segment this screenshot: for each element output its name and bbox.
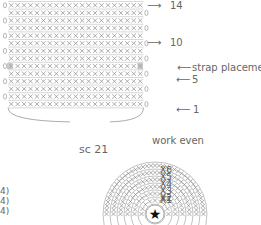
svg-text:★: ★ <box>149 206 162 222</box>
svg-text:X6: X6 <box>160 165 172 175</box>
crochet-diagram: X1X2X3X4X5X6★ <box>0 0 261 225</box>
row-1-arrow: ⟵ <box>176 105 190 115</box>
strap-placement-label: strap placement <box>192 63 261 73</box>
note-3: 4) <box>0 207 9 216</box>
row-14-arrow: ⟶ <box>147 1 161 11</box>
row-1-label: 1 <box>193 105 199 115</box>
row-5-arrow: ⟵ <box>176 75 190 85</box>
stitch-chart-graphic: X1X2X3X4X5X6★ <box>0 0 261 225</box>
note-1: 4) <box>0 187 9 196</box>
round-chart: X1X2X3X4X5X6★ <box>103 162 207 225</box>
row-10-label: 10 <box>170 38 183 48</box>
strap-arrow: ⟵ <box>177 63 191 73</box>
work-even-label: work even <box>152 136 204 146</box>
rectangular-chart <box>3 2 148 122</box>
row-10-arrow: ⟶ <box>147 38 161 48</box>
row-14-label: 14 <box>170 1 183 11</box>
stitch-count-label: sc 21 <box>79 145 108 155</box>
note-2: 4) <box>0 197 9 206</box>
row-5-label: 5 <box>192 75 198 85</box>
